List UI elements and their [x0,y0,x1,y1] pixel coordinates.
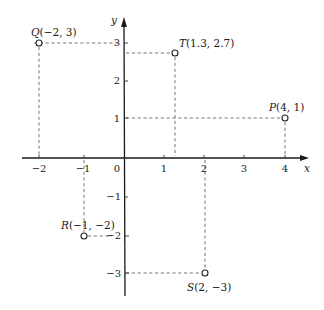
point-s: S(2, −3) [187,270,231,293]
y-axis [124,24,125,296]
origin-label: 0 [114,163,120,174]
point-marker-icon [81,233,87,239]
axes [22,17,309,296]
y-tick-label: −2 [106,230,121,241]
x-axis-arrow-icon [300,155,309,161]
point-marker-icon [36,40,42,46]
x-tick-labels: −2 −1 0 1 2 3 4 x [32,162,310,174]
point-marker-icon [202,270,208,276]
y-tick-labels: y 3 2 1 −1 −2 −3 [106,14,121,279]
point-p-label: P(4, 1) [268,101,304,113]
y-axis-arrow-icon [121,17,127,27]
x-axis-label: x [304,162,310,174]
coordinate-plane: −2 −1 0 1 2 3 4 x y 3 2 1 −1 −2 −3 Q(−2,… [0,0,324,310]
x-tick-label: 3 [241,163,247,174]
point-q-label: Q(−2, 3) [31,26,77,39]
point-marker-icon [172,50,178,56]
point-q-coords: (−2, 3) [40,26,77,38]
x-tick-label: −1 [76,163,91,174]
y-tick-label: 3 [114,37,120,48]
point-t-label: T(1.3, 2.7) [179,37,234,49]
point-s-label: S(2, −3) [187,281,231,293]
point-marker-icon [282,115,288,121]
point-r-coords: (−1, −2) [69,219,115,231]
point-p-coords: (4, 1) [276,101,304,113]
point-r-label: R(−1, −2) [60,219,115,231]
point-t-coords: (1.3, 2.7) [186,37,234,49]
x-tick-label: 2 [201,163,207,174]
point-t: T(1.3, 2.7) [172,37,234,56]
x-tick-label: −2 [32,163,47,174]
y-axis-label: y [110,14,118,26]
point-r-name: R [60,219,69,231]
points: Q(−2, 3) T(1.3, 2.7) P(4, 1) R(−1, −2) S… [31,26,304,293]
x-tick-label: 4 [282,163,288,174]
x-tick-label: 1 [161,163,167,174]
y-tick-label: 1 [114,113,120,124]
y-tick-label: −1 [106,191,121,202]
y-tick-label: −3 [106,268,121,279]
y-tick-label: 2 [114,75,120,86]
point-s-name: S [187,281,194,293]
point-s-coords: (2, −3) [194,281,231,293]
